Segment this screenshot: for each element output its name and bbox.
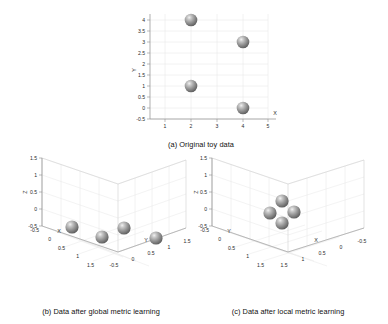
x-tick-label: 1 [164, 123, 167, 129]
z-tick-label: 1.5 [200, 155, 207, 161]
data-point-sphere [275, 194, 288, 207]
z-ticks-b: 1.5 1 0.5 0 -0.5 [28, 155, 42, 229]
y-ticks-b: -0.5 0 0.5 1 1.5 Y [110, 237, 191, 268]
x-axis-label-b: X [57, 228, 61, 234]
x-tick-label: 0.5 [58, 245, 65, 251]
x-tick-label: 1.5 [280, 262, 287, 268]
y-tick-label: 1 [142, 83, 145, 89]
y-axis-label-c: Y [227, 228, 231, 234]
data-point-sphere [263, 206, 276, 219]
y-tick-label: -0.5 [200, 227, 209, 233]
x-tick-label: 0.5 [318, 250, 325, 256]
plot-b-svg: 1.5 1 0.5 0 -0.5 Z -0.5 0 0.5 1 1.5 X -0… [6, 148, 196, 320]
panel-local-metric-learning: 1.5 1 0.5 0 -0.5 Z -0.5 0 0.5 1 1.5 Y 1.… [192, 148, 384, 320]
data-point-sphere [185, 14, 198, 27]
y-tick-label: 3 [142, 39, 145, 45]
pane-edges-b [42, 158, 186, 252]
z-tick-label: 1 [204, 172, 207, 178]
y-tick-label: 3.5 [138, 28, 145, 34]
x-axis-label-c: X [314, 237, 318, 243]
x-tick-label: 4 [242, 123, 245, 129]
data-point-sphere [287, 205, 300, 218]
y-axis-label-b: Y [144, 237, 148, 243]
x-tick-label: 5 [267, 123, 270, 129]
y-tick-label: 0 [218, 236, 221, 242]
x-tick-label: 2 [190, 123, 193, 129]
y-tick-label: -0.5 [110, 262, 119, 268]
z-axis-label-c: Z [193, 190, 199, 194]
y-tick-label: 0.5 [138, 94, 145, 100]
x-tick-label: 1 [76, 253, 79, 259]
y-ticks-a: 4 3.5 3 2.5 2 1.5 1 0.5 0 -0.5 [136, 17, 150, 122]
figure-toy-data-metric-learning: 4 3.5 3 2.5 2 1.5 1 0.5 0 -0.5 1 2 3 [0, 0, 388, 324]
y-tick-label: 4 [142, 17, 145, 23]
data-point-sphere [275, 216, 288, 229]
z-ticks-c: 1.5 1 0.5 0 -0.5 [198, 155, 212, 229]
x-tick-label: 3 [216, 123, 219, 129]
data-point-sphere [237, 36, 250, 49]
y-tick-label: 0 [142, 105, 145, 111]
x-ticks-a: 1 2 3 4 5 [164, 119, 270, 129]
data-point-sphere [149, 231, 162, 244]
panel-global-metric-learning: 1.5 1 0.5 0 -0.5 Z -0.5 0 0.5 1 1.5 X -0… [6, 148, 196, 320]
plot-c-svg: 1.5 1 0.5 0 -0.5 Z -0.5 0 0.5 1 1.5 Y 1.… [192, 148, 384, 320]
x-tick-label: 0 [340, 244, 343, 250]
y-tick-label: 1.5 [183, 238, 190, 244]
data-point-sphere [95, 230, 108, 243]
y-tick-label: 1.5 [257, 262, 264, 268]
y-tick-label: 0.5 [228, 245, 235, 251]
z-axis-label-b: Z [22, 190, 28, 194]
data-point-sphere [117, 221, 130, 234]
y-tick-label: 1 [246, 253, 249, 259]
y-tick-label: 2 [142, 61, 145, 67]
y-tick-label: 0.5 [147, 250, 154, 256]
y-axis-label-a: Y [131, 68, 137, 72]
x-tick-label: 0 [48, 236, 51, 242]
x-tick-label: -0.5 [358, 238, 367, 244]
panel-original-toy-data: 4 3.5 3 2.5 2 1.5 1 0.5 0 -0.5 1 2 3 [118, 2, 284, 150]
z-tick-label: 0 [204, 206, 207, 212]
grid-wall-left-c [212, 158, 288, 252]
y-tick-label: 0 [132, 256, 135, 262]
panel-caption-c: (c) Data after local metric learning [192, 307, 384, 316]
data-point-sphere [185, 80, 198, 93]
y-tick-label: 1 [168, 244, 171, 250]
y-tick-label: 1.5 [138, 72, 145, 78]
grid-horizontal-a [150, 20, 268, 119]
y-tick-label: -0.5 [136, 116, 145, 122]
y-tick-label: 2.5 [138, 50, 145, 56]
grid-vertical-a [165, 14, 268, 119]
z-tick-label: 1.5 [30, 155, 37, 161]
x-tick-label: -0.5 [30, 227, 39, 233]
z-tick-label: 0.5 [200, 189, 207, 195]
data-point-sphere [237, 102, 250, 115]
data-point-sphere [65, 220, 78, 233]
x-tick-label: 1.5 [87, 262, 94, 268]
x-axis-label-a: X [273, 110, 277, 116]
panel-caption-b: (b) Data after global metric learning [6, 307, 196, 316]
z-tick-label: 0.5 [30, 189, 37, 195]
x-tick-label: 1 [302, 256, 305, 262]
z-tick-label: 1 [34, 172, 37, 178]
pane-edges-c [212, 158, 364, 252]
z-tick-label: 0 [34, 206, 37, 212]
plot-a-svg: 4 3.5 3 2.5 2 1.5 1 0.5 0 -0.5 1 2 3 [118, 2, 284, 150]
